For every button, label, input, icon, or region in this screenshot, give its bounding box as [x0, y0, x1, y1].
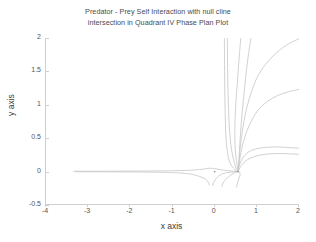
trajectory-curve: [237, 172, 241, 187]
y-tick-label: -0.5: [8, 200, 41, 207]
equilibrium-point-marker: [237, 171, 239, 173]
trajectory-curve: [238, 154, 299, 172]
x-axis-label: x axis: [45, 221, 298, 231]
equilibrium-point-marker: [214, 171, 216, 173]
trajectory-curve: [227, 38, 238, 172]
x-tick-label: 1: [241, 207, 271, 214]
y-tick-mark: [46, 105, 49, 106]
trajectory-curve: [73, 168, 237, 171]
x-tick-label: -3: [72, 207, 102, 214]
y-tick-label: 1: [8, 100, 41, 107]
y-tick-mark: [46, 138, 49, 139]
trajectory-curve: [222, 172, 238, 187]
chart-title-line-2: intersection in Quadrant IV Phase Plan P…: [0, 18, 316, 29]
x-tick-label: -1: [157, 207, 187, 214]
trajectory-curve: [238, 39, 299, 171]
phase-plane-figure: Predator - Prey Self Interaction with nu…: [0, 0, 316, 242]
trajectory-curve: [213, 172, 238, 186]
x-tick-label: 0: [199, 207, 229, 214]
y-tick-label: 0: [8, 167, 41, 174]
chart-title: Predator - Prey Self Interaction with nu…: [0, 7, 316, 28]
plot-area: [45, 38, 298, 205]
x-tick-label: -4: [30, 207, 60, 214]
y-tick-label: 2: [8, 33, 41, 40]
trajectory-curves: [46, 38, 299, 205]
y-tick-mark: [46, 205, 49, 206]
y-tick-mark: [46, 38, 49, 39]
trajectory-curve: [76, 172, 210, 185]
chart-title-line-1: Predator - Prey Self Interaction with nu…: [0, 7, 316, 18]
y-tick-mark: [46, 172, 49, 173]
y-tick-mark: [46, 71, 49, 72]
x-tick-label: 2: [283, 207, 313, 214]
x-tick-label: -2: [114, 207, 144, 214]
y-tick-label: 1.5: [8, 66, 41, 73]
y-tick-label: 0.5: [8, 133, 41, 140]
